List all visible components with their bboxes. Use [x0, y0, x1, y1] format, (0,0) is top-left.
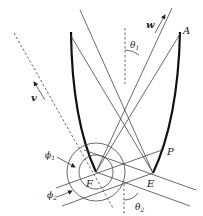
- label-theta2: θ2: [135, 202, 144, 213]
- label-p: P: [166, 146, 174, 157]
- label-theta1: θ1: [130, 40, 139, 51]
- label-phi1: ϕ1: [45, 150, 55, 161]
- label-e: E: [146, 178, 155, 189]
- theta2-arc: [124, 193, 138, 200]
- label-w: w: [146, 19, 155, 30]
- ray-f-lower-right: [84, 150, 196, 190]
- label-v: v: [31, 92, 37, 103]
- ray-f-lower-right-2: [96, 172, 190, 206]
- label-phi2: ϕ2: [47, 190, 57, 201]
- v-dashed-line: [14, 33, 113, 208]
- phi1-arrow: [57, 157, 75, 167]
- label-a: A: [182, 25, 190, 36]
- ray-left-top-to-e: [71, 36, 153, 173]
- diagram-canvas: A P F E w v θ1 θ2 ϕ1 ϕ2: [0, 0, 203, 216]
- left-reflector-curve: [71, 32, 96, 172]
- ray-w-to-f: [96, 8, 172, 172]
- w-arrow: [155, 15, 165, 33]
- label-f: F: [85, 178, 94, 189]
- ray-top-to-e: [80, 10, 153, 173]
- phi2-arrow: [57, 191, 72, 197]
